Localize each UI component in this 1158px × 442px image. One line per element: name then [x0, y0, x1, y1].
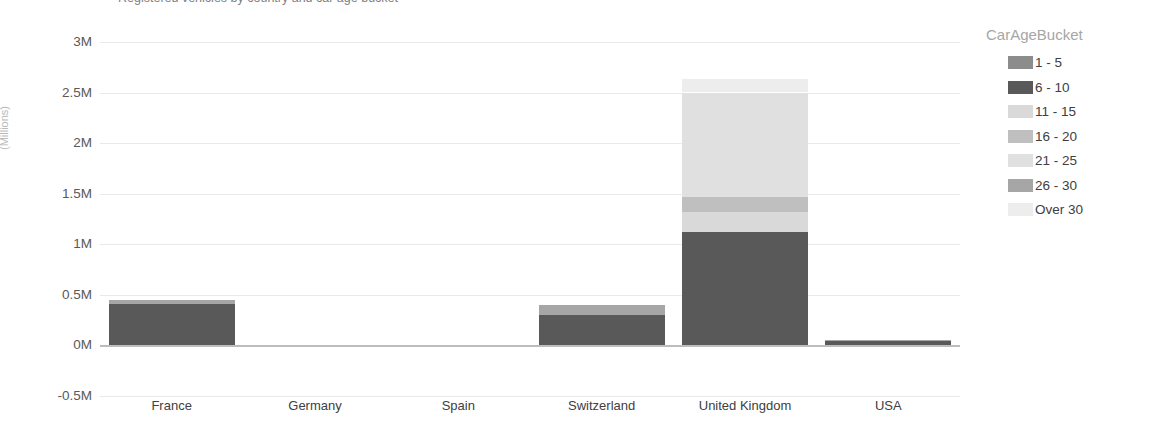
legend-swatch-icon [1008, 81, 1033, 94]
legend-item-label: 6 - 10 [1035, 80, 1070, 95]
legend-item[interactable]: Over 30 [986, 199, 1156, 220]
legend-swatch-icon [1008, 56, 1033, 69]
legend-swatch-icon [1008, 203, 1033, 216]
legend-item-label: 21 - 25 [1035, 153, 1077, 168]
legend-item[interactable]: 21 - 25 [986, 150, 1156, 171]
y-axis-tick-label: 0M [14, 338, 92, 352]
y-axis-tick-label: 1M [14, 237, 92, 251]
bar-switzerland[interactable] [539, 42, 665, 442]
y-axis-tick-label: 2M [14, 136, 92, 150]
y-axis-tick-label: -0.5M [14, 389, 92, 403]
y-axis-tick-label: 0.5M [14, 288, 92, 302]
bar-usa[interactable] [825, 42, 951, 442]
y-axis-tick-label: 1.5M [14, 187, 92, 201]
x-axis-tick-label: USA [798, 398, 978, 413]
legend-swatch-icon [1008, 154, 1033, 167]
bar-segment[interactable] [825, 341, 951, 345]
legend-swatch-icon [1008, 179, 1033, 192]
legend-item[interactable]: 11 - 15 [986, 101, 1156, 122]
legend-item-label: 16 - 20 [1035, 129, 1077, 144]
plot-area [100, 42, 960, 442]
legend-item[interactable]: 16 - 20 [986, 126, 1156, 147]
bar-segment[interactable] [825, 340, 951, 342]
bar-segment[interactable] [682, 232, 808, 345]
bar-spain[interactable] [395, 42, 521, 442]
bar-france[interactable] [109, 42, 235, 442]
legend-item[interactable]: 6 - 10 [986, 77, 1156, 98]
bar-segment[interactable] [682, 197, 808, 212]
legend-title: CarAgeBucket [986, 26, 1156, 43]
bar-segment[interactable] [682, 212, 808, 232]
legend-item-label: 1 - 5 [1035, 55, 1062, 70]
bar-segment[interactable] [539, 315, 665, 345]
legend: CarAgeBucket 1 - 56 - 1011 - 1516 - 2021… [986, 26, 1156, 224]
legend-items: 1 - 56 - 1011 - 1516 - 2021 - 2526 - 30O… [986, 52, 1156, 220]
bar-united-kingdom[interactable] [682, 42, 808, 442]
bar-segment[interactable] [109, 304, 235, 345]
chart-container: Registered vehicles by country and car a… [0, 0, 1158, 442]
legend-item[interactable]: 1 - 5 [986, 52, 1156, 73]
legend-item-label: 26 - 30 [1035, 178, 1077, 193]
legend-item[interactable]: 26 - 30 [986, 175, 1156, 196]
legend-swatch-icon [1008, 130, 1033, 143]
y-axis-tick-label: 2.5M [14, 86, 92, 100]
y-axis-title: (Millions) [0, 50, 10, 150]
y-axis-tick-label: 3M [14, 35, 92, 49]
legend-item-label: Over 30 [1035, 202, 1083, 217]
legend-item-label: 11 - 15 [1035, 104, 1076, 119]
bar-germany[interactable] [252, 42, 378, 442]
bar-segment[interactable] [109, 300, 235, 304]
chart-title-clipped: Registered vehicles by country and car a… [118, 0, 678, 5]
bar-segment[interactable] [539, 305, 665, 315]
legend-swatch-icon [1008, 105, 1033, 118]
bar-segment[interactable] [682, 93, 808, 197]
bar-segment[interactable] [682, 79, 808, 92]
